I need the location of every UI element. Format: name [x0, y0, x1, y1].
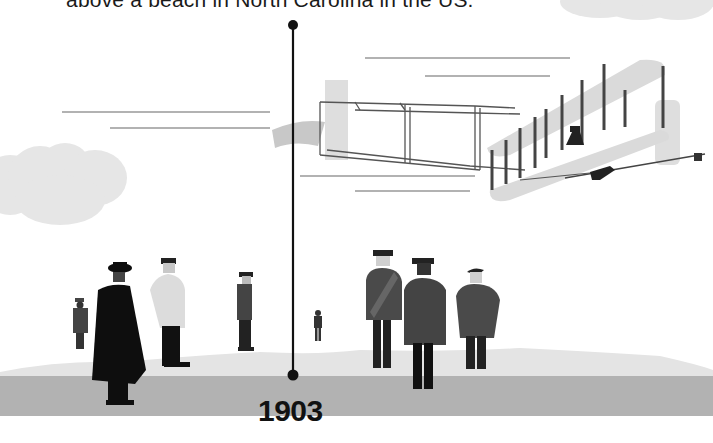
tail-skid [694, 153, 702, 161]
onlooker-distant [314, 310, 322, 341]
front-elevator [272, 121, 325, 148]
illustration: above a beach in North Carolina in the U… [0, 0, 713, 443]
rudder-left [325, 80, 348, 160]
timeline-marker [288, 20, 299, 381]
ground [0, 376, 713, 416]
onlooker-light-coat [150, 258, 190, 367]
frame [320, 102, 525, 170]
onlooker-small-left [73, 298, 88, 349]
timeline-year: 1903 [258, 394, 323, 428]
cloud-top-right [560, 0, 713, 20]
onlooker-mid [237, 272, 254, 351]
cloud-left [0, 143, 127, 225]
scene-artwork [0, 0, 713, 443]
